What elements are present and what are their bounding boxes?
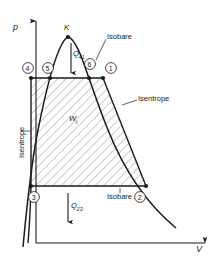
- state-point-label-1: 1: [109, 65, 113, 72]
- isentrope-left-label: Isentrope: [18, 127, 26, 158]
- state-point-label-5: 5: [46, 65, 50, 72]
- work-subscript: t: [76, 119, 77, 125]
- isentrope-right-label: Isentrope: [138, 95, 169, 103]
- heat-input-subscript: 41: [79, 54, 85, 60]
- work-label: Wt: [69, 115, 78, 125]
- state-point-marker: [87, 76, 91, 80]
- heat-output-subscript: 23: [77, 206, 83, 212]
- p-axis-label: p: [13, 23, 18, 32]
- heat-output-label: Q23: [71, 202, 83, 212]
- isobare-top-leader: [96, 39, 106, 60]
- state-point-marker: [29, 184, 33, 188]
- isobare-bottom-label: Isobare: [107, 193, 132, 201]
- state-point-marker: [66, 35, 70, 39]
- isentrope-left-line: [28, 78, 31, 243]
- state-point-label-3: 3: [32, 194, 36, 201]
- isentrope-right-leader: [122, 100, 137, 105]
- state-point-label-4: 4: [26, 65, 30, 72]
- state-point-marker: [48, 76, 52, 80]
- state-point-label-6: 6: [88, 61, 92, 68]
- state-point-label-2: 2: [138, 194, 142, 201]
- isobare-top-label: Isobare: [107, 33, 132, 41]
- state-point-marker: [29, 76, 33, 80]
- v-axis-label: V: [196, 245, 202, 254]
- cycle-work-area: [31, 78, 146, 186]
- heat-input-label: Q41: [73, 50, 85, 60]
- state-point-marker: [144, 184, 148, 188]
- state-point-marker: [101, 76, 105, 80]
- critical-point-label: K: [64, 24, 69, 32]
